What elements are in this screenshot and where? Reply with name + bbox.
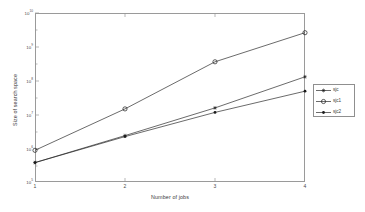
legend-marker-circle xyxy=(314,96,333,107)
series-sjc2 xyxy=(34,90,307,164)
dot-icon xyxy=(304,90,307,93)
series-layer xyxy=(0,0,365,212)
tick-marks xyxy=(35,13,215,182)
series-sjc2-line xyxy=(35,91,305,162)
legend-marker-star xyxy=(314,85,333,96)
star-icon xyxy=(303,75,307,79)
series-sjc-line xyxy=(35,77,305,163)
dot-icon xyxy=(124,135,127,138)
legend-label: sjc xyxy=(333,88,339,93)
dot-icon xyxy=(214,111,217,114)
series-sjc1 xyxy=(33,31,307,153)
dot-icon xyxy=(34,161,37,164)
legend-label: sjc2 xyxy=(333,110,341,115)
figure-canvas: 1010 109 108 107 106 105 1 2 3 4 Number … xyxy=(0,0,365,212)
legend-box[interactable]: sjc sjc1 sjc2 xyxy=(313,84,355,117)
legend-item-sjc[interactable]: sjc xyxy=(314,85,354,96)
legend-item-sjc1[interactable]: sjc1 xyxy=(314,96,354,107)
series-sjc1-markers xyxy=(33,31,307,153)
legend-label: sjc1 xyxy=(333,99,341,104)
series-sjc1-line xyxy=(35,33,305,151)
legend-item-sjc2[interactable]: sjc2 xyxy=(314,107,354,118)
series-sjc2-markers xyxy=(34,90,307,164)
star-icon xyxy=(213,106,217,110)
legend-marker-dot xyxy=(314,107,333,118)
